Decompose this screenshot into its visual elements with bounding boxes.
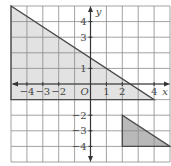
x-tick-label: 2	[119, 86, 125, 97]
y-tick-label: −4	[72, 141, 87, 152]
coordinate-plane: −4−3−2124431−2−3−4Oxy	[0, 0, 171, 166]
y-axis-label: y	[95, 6, 102, 17]
coordinate-plane-svg: −4−3−2124431−2−3−4Oxy	[0, 0, 171, 166]
y-tick-label: −2	[72, 110, 87, 121]
y-tick-label: 3	[80, 32, 86, 43]
origin-label: O	[80, 86, 88, 97]
y-axis-arrow-up-icon	[88, 6, 93, 12]
y-axis-arrow-down-icon	[88, 156, 93, 162]
x-tick-label: −3	[35, 86, 50, 97]
x-tick-label: −2	[51, 86, 66, 97]
x-tick-label: −4	[20, 86, 35, 97]
y-tick-label: 4	[80, 16, 86, 27]
x-tick-label: 1	[103, 86, 109, 97]
y-tick-label: −3	[72, 125, 87, 136]
y-tick-label: 1	[80, 63, 86, 74]
x-tick-label: 4	[151, 86, 157, 97]
x-axis-label: x	[162, 86, 168, 97]
